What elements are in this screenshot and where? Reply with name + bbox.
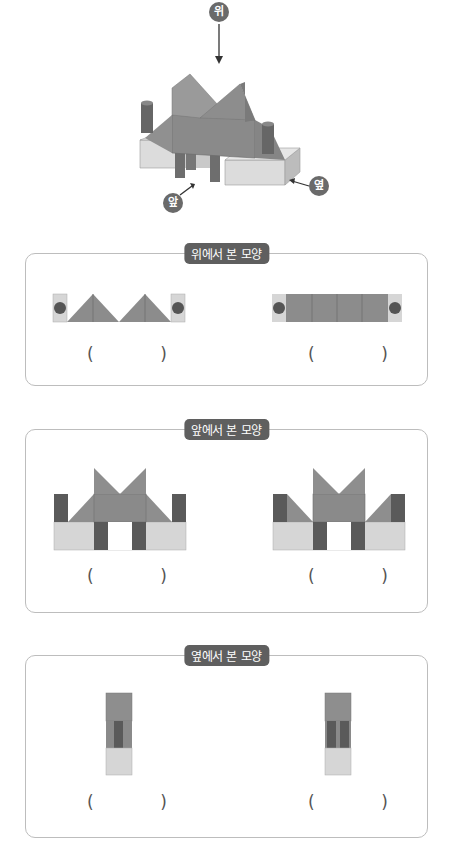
close-paren: ) [160,344,167,364]
front-view-option-b[interactable] [273,468,405,550]
block-figure: 위 앞 옆 [0,0,452,215]
side-arrow-icon [0,0,452,215]
close-paren: ) [160,566,167,586]
open-paren: ( [308,566,315,586]
front-view-option-a[interactable] [54,468,186,550]
open-paren: ( [87,792,94,812]
open-paren: ( [87,344,94,364]
top-view-answer-b[interactable]: ( ) [308,344,388,368]
front-view-answer-a[interactable]: ( ) [87,566,167,590]
panel-title: 옆에서 본 모양 [184,645,269,666]
close-paren: ) [381,566,388,586]
open-paren: ( [87,566,94,586]
side-view-answer-b[interactable]: ( ) [308,792,388,816]
close-paren: ) [381,792,388,812]
side-view-option-a[interactable] [106,693,132,775]
top-view-answer-a[interactable]: ( ) [87,344,167,368]
panel-title: 앞에서 본 모양 [184,419,269,440]
side-view-option-b[interactable] [325,693,351,775]
open-paren: ( [308,792,315,812]
top-view-option-a[interactable] [53,294,183,322]
close-paren: ) [381,344,388,364]
front-view-answer-b[interactable]: ( ) [308,566,388,590]
panel-title: 위에서 본 모양 [184,243,269,264]
front-view-panel: 앞에서 본 모양 ( ) ( ) [25,429,428,613]
side-view-answer-a[interactable]: ( ) [87,792,167,816]
top-view-option-b[interactable] [272,294,402,322]
open-paren: ( [308,344,315,364]
side-view-panel: 옆에서 본 모양 ( ) ( ) [25,655,428,838]
top-view-panel: 위에서 본 모양 ( ) ( ) [25,253,428,386]
close-paren: ) [160,792,167,812]
